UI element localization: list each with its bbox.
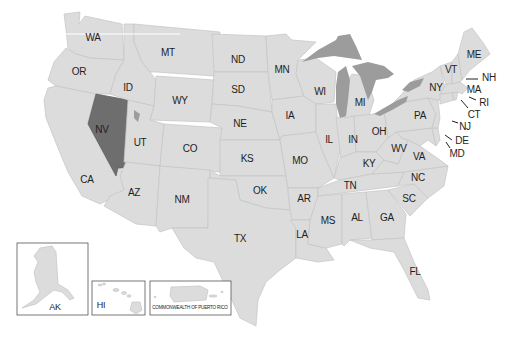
- label-hi: HI: [97, 300, 105, 310]
- label-sd: SD: [231, 84, 244, 95]
- label-tn: TN: [344, 180, 357, 191]
- label-me: ME: [467, 49, 482, 60]
- label-ne: NE: [233, 118, 247, 129]
- label-md: MD: [450, 148, 465, 159]
- label-ms: MS: [321, 215, 336, 226]
- label-nc: NC: [411, 172, 425, 183]
- label-de: DE: [455, 135, 469, 146]
- leader-de: [445, 135, 452, 140]
- label-ma: MA: [467, 84, 482, 95]
- label-wa: WA: [85, 32, 101, 43]
- label-vt: VT: [445, 64, 457, 75]
- inset-hawaii[interactable]: HI: [92, 281, 145, 315]
- label-ut: UT: [134, 137, 147, 148]
- label-nj: NJ: [459, 121, 471, 132]
- label-wv: WV: [391, 143, 407, 154]
- label-ar: AR: [297, 193, 310, 204]
- label-ca: CA: [80, 174, 94, 185]
- label-in: IN: [348, 134, 357, 145]
- label-ct: CT: [468, 109, 481, 120]
- label-mi: MI: [355, 97, 366, 108]
- label-or: OR: [72, 66, 86, 77]
- label-tx: TX: [234, 233, 247, 244]
- label-va: VA: [413, 151, 426, 162]
- label-ok: OK: [253, 185, 267, 196]
- label-ks: KS: [241, 153, 254, 164]
- leader-ri: [469, 97, 476, 100]
- lake-superior: [302, 34, 362, 62]
- label-wi: WI: [314, 86, 326, 97]
- label-pr: COMMONWEALTH OF PUERTO RICO: [152, 305, 228, 310]
- label-ia: IA: [286, 110, 295, 121]
- label-la: LA: [296, 229, 308, 240]
- inset-alaska[interactable]: AK: [17, 243, 88, 315]
- inset-puerto-rico[interactable]: COMMONWEALTH OF PUERTO RICO: [150, 281, 231, 315]
- state-mt[interactable]: [134, 24, 220, 76]
- label-nh: NH: [482, 72, 496, 83]
- label-ky: KY: [363, 158, 376, 169]
- label-ri: RI: [479, 97, 488, 108]
- leader-ct: [461, 100, 468, 108]
- territory-pr[interactable]: [170, 286, 208, 302]
- label-az: AZ: [128, 187, 140, 198]
- label-wy: WY: [172, 95, 188, 106]
- label-id: ID: [123, 82, 132, 93]
- label-mn: MN: [275, 64, 290, 75]
- label-ak: AK: [49, 302, 61, 312]
- label-pa: PA: [414, 110, 427, 121]
- label-oh: OH: [372, 126, 386, 137]
- label-nd: ND: [231, 54, 245, 65]
- label-sc: SC: [402, 193, 415, 204]
- label-mt: MT: [161, 47, 175, 58]
- label-nv: NV: [95, 124, 109, 135]
- label-fl: FL: [409, 266, 421, 277]
- label-mo: MO: [292, 155, 308, 166]
- leader-nj: [452, 121, 458, 123]
- label-nm: NM: [175, 194, 190, 205]
- label-il: IL: [325, 134, 333, 145]
- us-map: WA OR CA ID NV UT AZ MT WY CO NM ND SD N…: [0, 0, 512, 340]
- label-al: AL: [351, 212, 363, 223]
- label-ny: NY: [429, 82, 443, 93]
- label-ga: GA: [380, 212, 394, 223]
- label-co: CO: [183, 143, 198, 154]
